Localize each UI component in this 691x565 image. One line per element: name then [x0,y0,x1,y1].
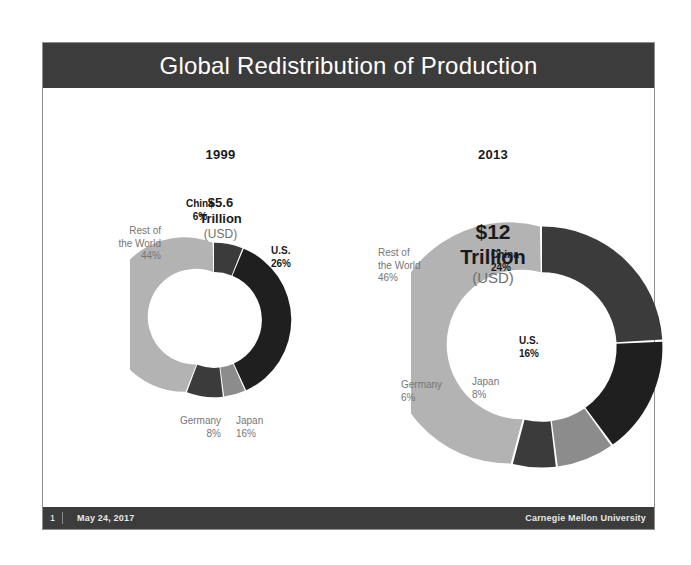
label-germany-1999: Germany 8% [180,415,221,440]
label-china-2013: China 24% [491,249,519,274]
label-germany-1999-value: 8% [180,428,221,441]
label-us-2013-name: U.S. [519,335,539,348]
label-japan-2013-name: Japan [472,376,499,389]
slide-body: 1999 [43,88,654,508]
donut-2013-graphic [411,216,673,478]
label-us-2013: U.S. 16% [519,335,539,360]
label-china-1999-name: China [186,198,214,211]
label-china-1999-value: 6% [186,211,214,224]
label-rest-of-world-1999: Rest of the World 44% [83,225,161,263]
chart-1999-heading: 1999 [88,147,353,162]
label-rest-of-world-2013-line1: Rest of [378,247,421,260]
label-china-1999: China 6% [186,198,214,223]
label-rest-of-world-2013-value: 46% [378,272,421,285]
chart-2013-heading: 2013 [343,147,643,162]
label-japan-2013: Japan 8% [472,376,499,401]
footer-page-number: 1 [50,513,62,523]
label-us-1999-name: U.S. [271,245,291,258]
label-rest-of-world-2013-line2: the World [378,260,421,273]
label-us-1999: U.S. 26% [271,245,291,270]
donut-chart-2013: 2013 [343,123,643,513]
center-1999-amount: $5.6 [88,195,353,211]
slide-title: Global Redistribution of Production [160,52,538,80]
label-japan-2013-value: 8% [472,389,499,402]
footer-organization: Carnegie Mellon University [525,513,646,523]
footer-divider [62,512,63,524]
label-japan-1999-name: Japan [236,415,263,428]
label-rest-of-world-1999-line1: Rest of [83,225,161,238]
label-japan-1999: Japan 16% [236,415,263,440]
donut-chart-1999: 1999 [88,133,353,508]
label-germany-2013-name: Germany [401,379,442,392]
label-china-2013-value: 24% [491,262,519,275]
slide-footer: 1 May 24, 2017 Carnegie Mellon Universit… [43,507,654,529]
label-us-2013-value: 16% [519,348,539,361]
donut-2013-svg [411,216,673,478]
label-rest-of-world-1999-value: 44% [83,250,161,263]
label-germany-1999-name: Germany [180,415,221,428]
label-germany-2013: Germany 6% [401,379,442,404]
label-us-1999-value: 26% [271,258,291,271]
label-rest-of-world-1999-line2: the World [83,238,161,251]
footer-date: May 24, 2017 [77,513,134,523]
label-japan-1999-value: 16% [236,428,263,441]
slide-title-bar: Global Redistribution of Production [43,43,654,88]
label-germany-2013-value: 6% [401,392,442,405]
label-china-2013-name: China [491,249,519,262]
presentation-slide: Global Redistribution of Production 1999 [42,42,655,530]
label-rest-of-world-2013: Rest of the World 46% [378,247,421,285]
slice-china-2013[interactable] [542,226,662,342]
